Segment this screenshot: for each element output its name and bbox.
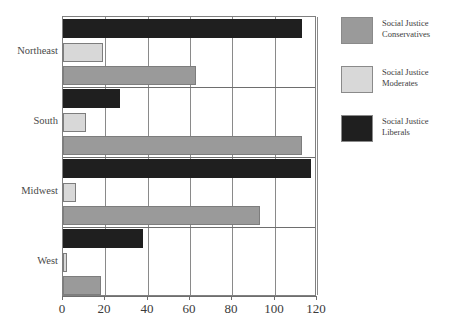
gridline-120 — [317, 17, 318, 295]
bar — [63, 276, 101, 295]
x-tick-100 — [274, 296, 275, 300]
group-separator-3 — [63, 227, 315, 228]
legend-label-line1: Social Justice — [382, 67, 448, 78]
bar — [63, 253, 67, 272]
group-separator-2 — [63, 157, 315, 158]
legend-label-line1: Social Justice — [382, 18, 448, 29]
legend-label-line2: Moderates — [382, 78, 448, 89]
x-tick-label-0: 0 — [42, 301, 82, 317]
x-tick-120 — [316, 296, 317, 300]
group-separator-1 — [63, 87, 315, 88]
x-tick-label-20: 20 — [84, 301, 124, 317]
x-tick-80 — [231, 296, 232, 300]
x-tick-0 — [62, 296, 63, 300]
legend-label-line2: Liberals — [382, 127, 448, 138]
legend-item-conservatives: Social Justice Conservatives — [338, 12, 448, 61]
x-tick-60 — [189, 296, 190, 300]
legend-label-conservatives: Social Justice Conservatives — [382, 18, 448, 40]
bar — [63, 43, 103, 62]
gridline-20 — [105, 17, 106, 295]
gridline-80 — [232, 17, 233, 295]
x-tick-20 — [104, 296, 105, 300]
bar — [63, 19, 302, 38]
bar — [63, 206, 260, 225]
legend: Social Justice Conservatives Social Just… — [338, 12, 448, 159]
bar — [63, 183, 76, 202]
legend-label-moderates: Social Justice Moderates — [382, 67, 448, 89]
bar-chart: 020406080100120 NortheastSouthMidwestWes… — [0, 0, 449, 333]
legend-swatch-conservatives — [341, 17, 373, 44]
bar — [63, 66, 196, 85]
legend-label-liberals: Social Justice Liberals — [382, 116, 448, 138]
x-tick-40 — [147, 296, 148, 300]
x-tick-label-120: 120 — [296, 301, 336, 317]
legend-item-moderates: Social Justice Moderates — [338, 61, 448, 110]
gridline-60 — [190, 17, 191, 295]
y-axis-label-midwest: Midwest — [0, 185, 58, 196]
gridline-100 — [275, 17, 276, 295]
x-tick-label-80: 80 — [211, 301, 251, 317]
legend-label-line1: Social Justice — [382, 116, 448, 127]
bar — [63, 136, 302, 155]
plot-area — [62, 16, 316, 296]
gridline-40 — [148, 17, 149, 295]
y-axis-label-west: West — [0, 255, 58, 266]
x-tick-label-40: 40 — [127, 301, 167, 317]
legend-swatch-moderates — [341, 66, 373, 93]
legend-swatch-liberals — [341, 115, 373, 142]
x-tick-label-60: 60 — [169, 301, 209, 317]
x-tick-label-100: 100 — [254, 301, 294, 317]
legend-item-liberals: Social Justice Liberals — [338, 110, 448, 159]
y-axis-label-northeast: Northeast — [0, 45, 58, 56]
bar — [63, 229, 143, 248]
bar — [63, 89, 120, 108]
bar — [63, 113, 86, 132]
y-axis-label-south: South — [0, 115, 58, 126]
bar — [63, 159, 311, 178]
legend-label-line2: Conservatives — [382, 29, 448, 40]
